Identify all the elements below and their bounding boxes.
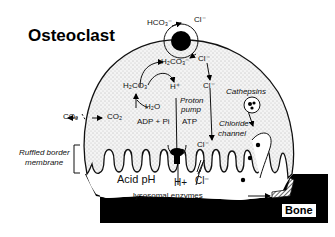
label-h2co3-top: H₂CO₃⁻ <box>161 58 189 66</box>
label-cl-mid: Cl⁻ <box>203 82 215 90</box>
label-ruffled-border-2: membrane <box>25 159 63 167</box>
label-chloride-channel-2: channel <box>218 130 246 138</box>
label-cl-in-top: Cl⁻ <box>198 55 210 63</box>
label-bone: Bone <box>281 203 317 218</box>
label-cl-out: Cl⁻ <box>194 16 206 24</box>
label-chloride-channel-1: Chloride <box>219 120 249 128</box>
cathepsin-vesicle <box>244 97 260 113</box>
label-atp: ATP <box>182 118 197 126</box>
label-ruffled-border-1: Ruffled border <box>19 149 70 157</box>
label-proton-pump-1: Proton <box>180 97 204 105</box>
ruffled-border-bracket <box>74 145 80 173</box>
label-cathepsins: Cathepsins <box>226 88 266 96</box>
label-h-plus: H⁺ <box>170 83 180 91</box>
label-cl-bottom: Cl⁻ <box>195 176 209 186</box>
label-lysosomal-enzymes: lysosomal enzymes <box>133 192 203 200</box>
label-h2o: H₂O <box>145 103 160 111</box>
label-adp-pi: ADP + Pi <box>137 118 170 126</box>
label-h-plus-bottom: H+ <box>174 178 187 188</box>
label-cl-low: Cl⁻ <box>197 141 209 149</box>
diagram-title: Osteoclast <box>28 27 115 44</box>
label-proton-pump-2: pump <box>181 106 201 114</box>
label-h2co3: H₂CO₃ <box>123 82 147 90</box>
chloride-channel <box>197 160 204 172</box>
label-hco3-out: HCO₃⁻ <box>147 19 172 27</box>
osteoclast-diagram: Osteoclast HCO₃⁻ Cl⁻ H₂CO₃⁻ Cl⁻ H₂CO₃ H⁺… <box>0 0 335 237</box>
label-co2-out: CO₂ <box>63 113 78 121</box>
label-co2-in: CO₂ <box>107 113 122 121</box>
label-acid-ph: Acid pH <box>117 174 156 185</box>
